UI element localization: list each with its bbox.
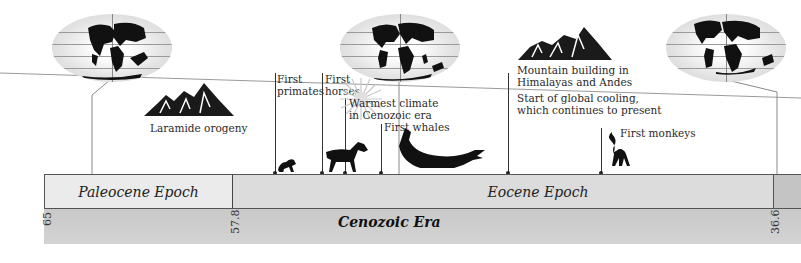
- eocene-world-map: [340, 14, 460, 82]
- epoch-label-eocene: Eocene Epoch: [488, 184, 589, 200]
- event-label-mountain-building: Mountain building in Himalayas and Andes: [517, 64, 632, 88]
- monkey-icon: [606, 130, 634, 170]
- whale-icon: [399, 128, 489, 168]
- continents-icon: [666, 14, 786, 82]
- epoch-paleocene: Paleocene Epoch: [44, 174, 233, 209]
- continents-icon: [52, 14, 172, 82]
- event-label-warmest-climate: Warmest climate in Cenozoic era: [349, 97, 439, 121]
- event-line-mountain-building: [508, 73, 509, 174]
- oligocene-world-map: [666, 14, 786, 82]
- laramide-mountain-icon: [144, 83, 234, 117]
- event-label-laramide-orogeny: Laramide orogeny: [150, 122, 247, 134]
- tick-36-6: 36.6: [769, 210, 782, 235]
- epoch-eocene: Eocene Epoch: [232, 174, 774, 209]
- himalaya-mountain-icon: [518, 27, 612, 61]
- primate-icon: [276, 156, 298, 172]
- event-line-first-monkeys: [601, 128, 602, 174]
- horse-icon: [322, 138, 370, 172]
- continents-icon: [340, 14, 460, 82]
- tick-65: 65: [41, 212, 54, 226]
- event-label-first-primates: First primates: [277, 73, 324, 97]
- era-label: Cenozoic Era: [338, 214, 441, 230]
- epoch-label-paleocene: Paleocene Epoch: [78, 184, 199, 200]
- event-line-first-whales: [381, 124, 382, 174]
- epoch-next: [773, 174, 801, 209]
- event-label-global-cooling: Start of global cooling, which continues…: [517, 92, 662, 116]
- tick-57-8: 57.8: [229, 210, 242, 235]
- paleocene-world-map: [52, 14, 172, 82]
